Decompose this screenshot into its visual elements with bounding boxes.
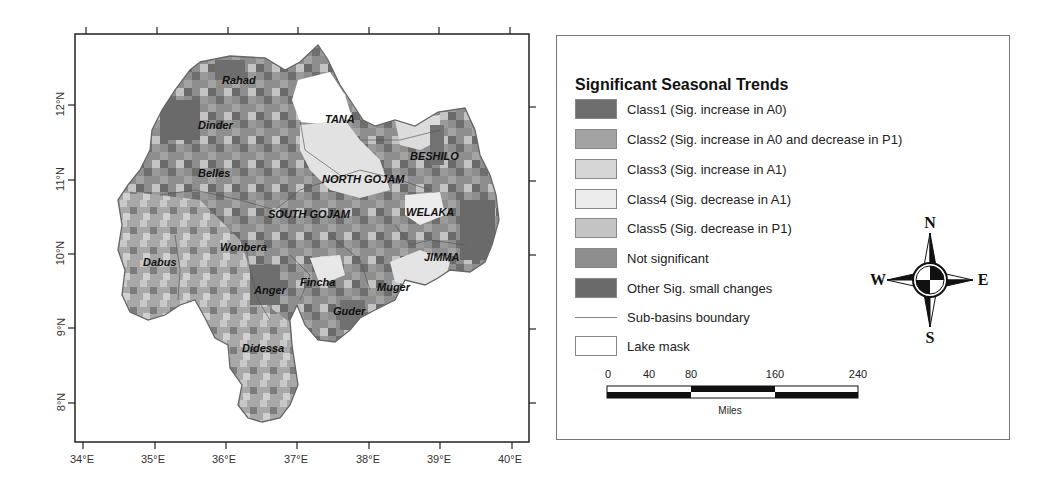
scale-tick-0: 0 [605,368,611,380]
swatch-not-significant [575,248,617,268]
lat-label-8: 8°N [55,393,67,411]
legend-label: Lake mask [627,339,690,354]
scale-tick-160: 160 [766,368,784,380]
basin-label-north-gojam: NORTH GOJAM [322,173,404,185]
map-panel: 34°E 35°E 36°E 37°E 38°E 39°E 40°E 12°N … [0,0,545,489]
compass-n: N [924,214,936,231]
top-ticks [86,27,510,34]
basin-map [0,0,545,489]
lon-label-40: 40°E [498,453,522,465]
swatch-class4 [575,189,617,209]
basin-label-belles: Belles [198,167,230,179]
basin-label-muger: Muger [377,281,410,293]
legend-label: Class3 (Sig. increase in A1) [627,162,787,177]
lon-label-36: 36°E [212,453,236,465]
basin-label-anger: Anger [254,284,286,296]
legend-item-class1: Class1 (Sig. increase in A0) [575,98,787,120]
lat-label-9: 9°N [55,318,67,336]
legend-item-lake-mask: Lake mask [575,335,690,357]
left-ticks [68,105,75,403]
lon-label-37: 37°E [284,453,308,465]
scale-tick-240: 240 [849,368,867,380]
lat-label-11: 11°N [54,167,66,191]
legend-item-other-sig: Other Sig. small changes [575,277,772,299]
scale-tick-80: 80 [685,368,697,380]
compass-rose-icon: N S W E [870,210,990,350]
basin-label-wonbera: Wonbera [220,241,267,253]
scale-bar-graphic [605,385,865,405]
basin-label-fincha: Fincha [300,276,335,288]
swatch-class1 [575,99,617,119]
basin-label-didessa: Didessa [242,342,284,354]
basin-label-south-gojam: SOUTH GOJAM [268,208,350,220]
swatch-lake-mask [575,336,617,356]
legend-item-not-significant: Not significant [575,247,709,269]
right-ticks [529,107,536,403]
swatch-class3 [575,159,617,179]
swatch-class2 [575,129,617,149]
basin-label-tana: TANA [325,113,355,125]
basin-label-dinder: Dinder [198,119,233,131]
legend-label: Class5 (Sig. decrease in P1) [627,221,792,236]
legend-label: Class2 (Sig. increase in A0 and decrease… [627,132,902,147]
legend-item-sub-basins-boundary: Sub-basins boundary [575,306,750,328]
basin-label-dabus: Dabus [143,256,177,268]
basin-label-guder: Guder [333,305,365,317]
basin-label-beshilo: BESHILO [410,150,459,162]
compass-e: E [978,271,989,288]
swatch-other-sig [575,278,617,298]
compass-s: S [926,329,935,346]
legend-label: Sub-basins boundary [627,310,750,325]
legend-label: Other Sig. small changes [627,281,772,296]
legend-label: Class4 (Sig. decrease in A1) [627,192,791,207]
north-arrow-compass: N S W E [870,210,990,350]
basin-label-rahad: Rahad [222,74,256,86]
bottom-ticks [83,442,512,449]
legend-label: Not significant [627,251,709,266]
basin-label-jimma: JIMMA [424,251,459,263]
lon-label-38: 38°E [356,453,380,465]
legend-item-class4: Class4 (Sig. decrease in A1) [575,188,791,210]
scale-unit-label: Miles [718,405,741,416]
swatch-class5 [575,218,617,238]
compass-w: W [870,271,886,288]
legend-title: Significant Seasonal Trends [575,76,788,94]
lon-label-35: 35°E [141,453,165,465]
lat-label-10: 10°N [54,241,66,266]
basin-label-welaka: WELAKA [406,206,454,218]
line-symbol-boundary [575,317,617,318]
lat-label-12: 12°N [54,92,66,117]
lon-label-39: 39°E [427,453,451,465]
lon-label-34: 34°E [70,453,94,465]
scale-bar: 0 40 80 160 240 Miles [605,368,865,418]
legend-item-class2: Class2 (Sig. increase in A0 and decrease… [575,128,902,150]
legend-label: Class1 (Sig. increase in A0) [627,102,787,117]
legend-item-class5: Class5 (Sig. decrease in P1) [575,217,792,239]
scale-tick-40: 40 [643,368,655,380]
legend-item-class3: Class3 (Sig. increase in A1) [575,158,787,180]
